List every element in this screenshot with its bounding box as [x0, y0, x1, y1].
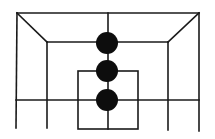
right-diagonal-line	[168, 13, 199, 42]
board-diagram	[0, 0, 215, 139]
left-diagonal-line	[17, 13, 47, 42]
game-board	[0, 0, 215, 139]
piece-middle[interactable]	[96, 60, 118, 82]
piece-bottom[interactable]	[96, 89, 118, 111]
piece-top[interactable]	[96, 32, 118, 54]
left-outer-vertical-line	[16, 13, 17, 128]
